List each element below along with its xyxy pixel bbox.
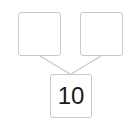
- left-part-box[interactable]: [18, 12, 61, 56]
- whole-box: 10: [50, 74, 92, 118]
- number-bond-diagram: 10: [0, 0, 132, 132]
- left-connector: [40, 56, 70, 74]
- right-part-box[interactable]: [80, 12, 123, 56]
- right-connector: [71, 56, 101, 74]
